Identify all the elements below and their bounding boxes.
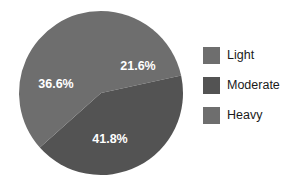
pie-slices xyxy=(19,11,183,175)
legend-label-light: Light xyxy=(227,49,254,62)
data-label-light: 21.6% xyxy=(120,59,155,73)
legend-swatch-heavy-icon xyxy=(203,107,220,124)
legend-item-light[interactable]: Light xyxy=(203,46,285,65)
data-label-heavy: 36.6% xyxy=(38,77,73,91)
pie-plot-area: 21.6% 41.8% 36.6% xyxy=(0,0,200,185)
pie-chart: 21.6% 41.8% 36.6% Light Moderate Heavy xyxy=(0,0,285,185)
legend-label-moderate: Moderate xyxy=(227,79,280,92)
legend-item-moderate[interactable]: Moderate xyxy=(203,76,285,95)
pie-svg: 21.6% 41.8% 36.6% xyxy=(0,0,200,185)
legend-item-heavy[interactable]: Heavy xyxy=(203,106,285,125)
legend-swatch-light-icon xyxy=(203,47,220,64)
data-label-moderate: 41.8% xyxy=(92,132,127,146)
legend: Light Moderate Heavy xyxy=(203,46,285,136)
legend-label-heavy: Heavy xyxy=(227,109,262,122)
legend-swatch-moderate-icon xyxy=(203,77,220,94)
